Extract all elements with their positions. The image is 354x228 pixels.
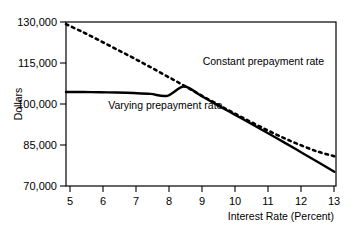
x-tick-label: 12 <box>295 195 307 207</box>
y-tick-label: 130,000 <box>17 16 57 28</box>
x-tick-labels: 5 6 7 8 9 10 11 12 13 <box>67 195 340 207</box>
x-tick-label: 6 <box>100 195 106 207</box>
annotation-varying-prepayment-rate: Varying prepayment rate <box>108 99 222 111</box>
prepayment-rate-line-chart: 130,000 115,000 100,000 85,000 70,000 5 … <box>0 0 354 228</box>
y-tick-label: 70,000 <box>23 180 57 192</box>
x-tick-label: 13 <box>328 195 340 207</box>
annotation-constant-prepayment-rate: Constant prepayment rate <box>203 55 325 67</box>
x-tick-label: 8 <box>166 195 172 207</box>
y-tick-label: 85,000 <box>23 139 57 151</box>
x-tick-label: 7 <box>133 195 139 207</box>
series-constant-prepayment-rate <box>66 24 334 156</box>
x-tick-label: 5 <box>67 195 73 207</box>
x-tick-label: 10 <box>229 195 241 207</box>
y-tick-marks <box>60 22 66 186</box>
x-tick-label: 9 <box>199 195 205 207</box>
x-tick-label: 11 <box>262 195 273 207</box>
chart-figure: 130,000 115,000 100,000 85,000 70,000 5 … <box>0 0 354 228</box>
x-tick-marks <box>70 186 334 192</box>
x-axis-title: Interest Rate (Percent) <box>228 210 334 222</box>
y-axis-title: Dollars <box>12 88 24 121</box>
y-tick-label: 115,000 <box>18 57 57 69</box>
